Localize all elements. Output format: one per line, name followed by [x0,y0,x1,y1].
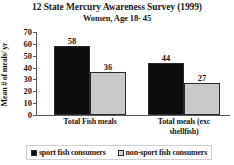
legend-swatch-icon [31,150,37,156]
bar-value-label: 44 [162,53,171,63]
y-tick-label: 0 [10,110,32,120]
legend-label: non-sport fish consumers [126,148,207,157]
x-axis-line [36,115,230,116]
y-tick-label: 10 [10,98,32,108]
y-tick-mark [33,91,36,92]
bar-value-label: 36 [104,62,113,72]
bar: 44 [148,63,184,115]
y-tick-label: 60 [10,39,32,49]
bar-chart-figure: 12 State Mercury Awareness Survey (1999)… [0,0,234,165]
legend-entry[interactable]: non-sport fish consumers [118,148,207,157]
bar: 36 [90,72,126,115]
y-tick-mark [33,68,36,69]
bar: 58 [54,46,90,115]
y-tick-label: 20 [10,86,32,96]
y-tick-mark [33,32,36,33]
bar-group: 4427 [148,32,220,115]
bar-value-label: 58 [68,36,77,46]
y-tick-mark [33,115,36,116]
category-label-line: shellfish) [129,127,234,137]
legend-entry[interactable]: sport fish consumers [31,148,106,157]
y-tick-label: 70 [10,27,32,37]
y-axis-line [36,32,37,115]
bar-value-label: 27 [198,73,207,83]
plot-area: 706050403020100 58364427 [36,32,230,115]
y-axis-title-text: Mean # of meals/ yr [1,42,10,106]
y-tick-label: 30 [10,74,32,84]
legend-label: sport fish consumers [39,148,106,157]
category-label: Total meals (excshellfish) [129,117,234,136]
bar-group: 5836 [54,32,126,115]
y-tick-mark [33,103,36,104]
chart-title-main: 12 State Mercury Awareness Survey (1999) [0,2,234,13]
chart-subtitle: Women, Age 18- 45 [0,13,234,24]
y-tick-label: 40 [10,63,32,73]
y-tick-mark [33,79,36,80]
chart-title: 12 State Mercury Awareness Survey (1999)… [0,2,234,24]
y-tick-label: 50 [10,51,32,61]
legend-swatch-icon [118,150,124,156]
y-tick-mark [33,56,36,57]
y-tick-mark [33,44,36,45]
bar: 27 [184,83,220,115]
category-label-line: Total meals (exc [129,117,234,127]
chart-legend: sport fish consumersnon-sport fish consu… [26,145,212,160]
